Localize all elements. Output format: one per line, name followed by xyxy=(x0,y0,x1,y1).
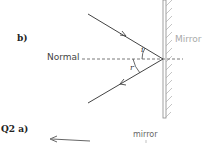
angle-r-arc xyxy=(133,59,140,73)
incident-ray xyxy=(88,14,163,59)
angle-incidence-label: i xyxy=(141,45,144,54)
q2-label: Q2 a) xyxy=(1,124,28,134)
reflected-ray xyxy=(88,59,163,103)
angle-reflection-label: r xyxy=(130,63,134,72)
part-b-label: b) xyxy=(17,33,28,43)
mirror-label: Mirror xyxy=(175,34,202,44)
reflection-diagram xyxy=(0,0,220,143)
q2-mirror-label: mirror xyxy=(133,130,157,139)
eye-icon xyxy=(50,136,90,142)
normal-label: Normal xyxy=(47,52,80,62)
